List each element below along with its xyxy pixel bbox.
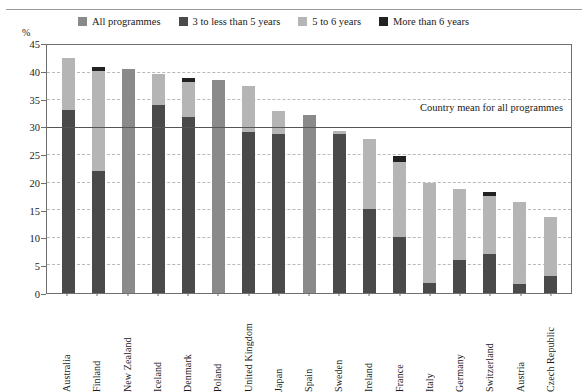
- x-axis-label-slot: Spain: [294, 296, 324, 392]
- bar-segment: [152, 105, 165, 293]
- plot-area: Country mean for all programmes: [46, 44, 572, 294]
- bar-segment: [303, 115, 316, 293]
- y-axis-tick-label: 35: [16, 94, 40, 105]
- chart-figure: All programmes3 to less than 5 years5 to…: [0, 0, 588, 392]
- bar-new-zealand[interactable]: [122, 69, 135, 293]
- y-axis-tick-label: 20: [16, 177, 40, 188]
- bar-segment: [333, 134, 346, 293]
- bar-segment: [393, 162, 406, 238]
- bar-segment: [544, 217, 557, 276]
- bar-segment: [363, 209, 376, 293]
- y-axis-tick-label: 25: [16, 150, 40, 161]
- legend-item-more_than_6[interactable]: More than 6 years: [379, 16, 469, 27]
- y-axis-tick-label: 45: [16, 39, 40, 50]
- legend-item-all_programmes[interactable]: All programmes: [78, 16, 161, 27]
- x-axis-tick-label: Finland: [92, 296, 102, 392]
- bar-slot: [415, 45, 445, 293]
- bar-segment: [423, 283, 436, 293]
- bar-segment: [363, 139, 376, 209]
- bar-germany[interactable]: [453, 189, 466, 293]
- x-axis-labels: AustraliaFinlandNew ZealandIcelandDenmar…: [46, 296, 572, 392]
- x-axis-tick-label: Austria: [516, 296, 526, 392]
- y-axis-unit-label: %: [22, 27, 30, 38]
- x-axis-label-slot: Australia: [52, 296, 82, 392]
- x-axis-label-slot: Iceland: [143, 296, 173, 392]
- bar-finland[interactable]: [92, 67, 105, 293]
- x-axis-label-slot: Austria: [506, 296, 536, 392]
- y-axis-tick-label: 15: [16, 205, 40, 216]
- bar-australia[interactable]: [62, 58, 75, 293]
- x-axis-tick-label: United Kingdom: [244, 296, 254, 392]
- country-mean-line: [47, 127, 571, 128]
- legend-label: 5 to 6 years: [312, 16, 361, 27]
- bar-segment: [393, 237, 406, 293]
- x-axis-label-slot: Ireland: [354, 296, 384, 392]
- bar-slot: [234, 45, 264, 293]
- bar-slot: [264, 45, 294, 293]
- bar-switzerland[interactable]: [483, 192, 496, 293]
- bar-france[interactable]: [393, 156, 406, 293]
- x-axis-tick-label: Poland: [213, 296, 223, 392]
- bar-ireland[interactable]: [363, 139, 376, 293]
- bar-spain[interactable]: [303, 115, 316, 293]
- bar-segment: [122, 69, 135, 293]
- legend-label: More than 6 years: [393, 16, 469, 27]
- bar-slot: [505, 45, 535, 293]
- x-axis-tick-label: Spain: [304, 296, 314, 392]
- x-axis-tick-label: Czech Republic: [546, 296, 556, 392]
- bar-slot: [445, 45, 475, 293]
- bar-segment: [453, 260, 466, 293]
- bar-segment: [483, 254, 496, 293]
- x-axis-label-slot: Denmark: [173, 296, 203, 392]
- bar-segment: [182, 82, 195, 116]
- x-axis-label-slot: Sweden: [324, 296, 354, 392]
- bar-slot: [535, 45, 565, 293]
- bar-slot: [354, 45, 384, 293]
- x-axis-tick-label: New Zealand: [123, 296, 133, 392]
- bar-austria[interactable]: [513, 202, 526, 293]
- legend-swatch-icon: [78, 17, 87, 26]
- bar-segment: [242, 86, 255, 132]
- bar-slot: [204, 45, 234, 293]
- legend-swatch-icon: [379, 17, 388, 26]
- x-axis-label-slot: Czech Republic: [536, 296, 566, 392]
- bar-segment: [92, 171, 105, 293]
- x-axis-label-slot: New Zealand: [112, 296, 142, 392]
- x-axis-tick-label: Sweden: [334, 296, 344, 392]
- bar-japan[interactable]: [272, 111, 285, 293]
- bar-segment: [152, 74, 165, 105]
- bar-segment: [513, 202, 526, 284]
- bar-segment: [272, 134, 285, 293]
- bar-denmark[interactable]: [182, 78, 195, 293]
- bar-italy[interactable]: [423, 183, 436, 293]
- x-axis-label-slot: Germany: [445, 296, 475, 392]
- y-axis-tick-label: 30: [16, 122, 40, 133]
- country-mean-label: Country mean for all programmes: [420, 102, 563, 115]
- legend-item-y3_to_5[interactable]: 3 to less than 5 years: [179, 16, 281, 27]
- x-axis-tick-label: Australia: [62, 296, 72, 392]
- x-axis-label-slot: Switzerland: [475, 296, 505, 392]
- bar-slot: [113, 45, 143, 293]
- x-axis-tick-label: Italy: [425, 296, 435, 392]
- bar-slot: [174, 45, 204, 293]
- bar-segment: [453, 189, 466, 260]
- y-axis-tick-label: 10: [16, 233, 40, 244]
- bar-czech-republic[interactable]: [544, 217, 557, 293]
- bar-segment: [62, 110, 75, 293]
- bar-slot: [53, 45, 83, 293]
- bar-slot: [475, 45, 505, 293]
- y-axis-tick-label: 5: [16, 261, 40, 272]
- legend-item-y5_to_6[interactable]: 5 to 6 years: [298, 16, 361, 27]
- bar-united-kingdom[interactable]: [242, 86, 255, 293]
- x-axis-label-slot: Japan: [264, 296, 294, 392]
- bar-poland[interactable]: [212, 80, 225, 293]
- bar-slot: [294, 45, 324, 293]
- legend-swatch-icon: [179, 17, 188, 26]
- x-axis-label-slot: Finland: [82, 296, 112, 392]
- bar-slot: [324, 45, 354, 293]
- bar-iceland[interactable]: [152, 74, 165, 293]
- y-axis-tick-label: 0: [16, 289, 40, 300]
- legend-label: All programmes: [92, 16, 161, 27]
- bar-sweden[interactable]: [333, 131, 346, 293]
- bar-slot: [83, 45, 113, 293]
